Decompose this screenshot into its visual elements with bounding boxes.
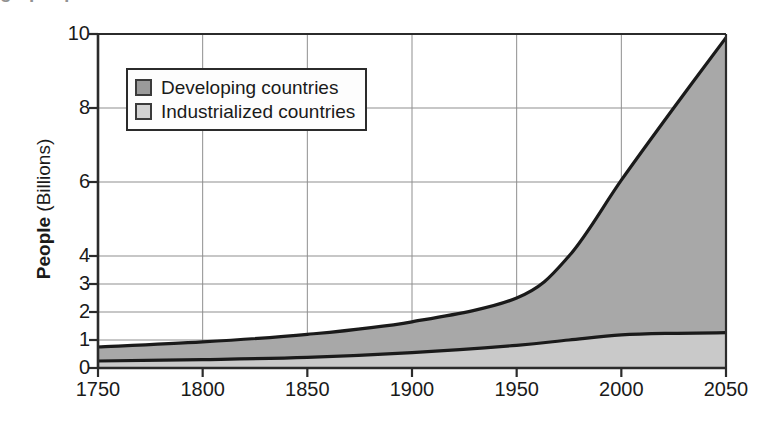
y-tick-2: 2 (44, 301, 90, 321)
y-tick-4: 4 (44, 245, 90, 265)
y-tick-10: 10 (44, 23, 90, 43)
y-tick-1: 1 (44, 329, 90, 349)
x-tick-1950: 1950 (477, 378, 557, 400)
x-tick-1750: 1750 (58, 378, 138, 400)
legend-label-developing: Developing countries (161, 78, 338, 97)
x-tick-1900: 1900 (372, 378, 452, 400)
y-tick-3: 3 (44, 273, 90, 293)
y-tick-8: 8 (44, 97, 90, 117)
legend-label-industrialized: Industrialized countries (161, 102, 355, 121)
x-tick-1850: 1850 (267, 378, 347, 400)
y-tick-6: 6 (44, 171, 90, 191)
x-tick-2000: 2000 (581, 378, 661, 400)
y-tick-0: 0 (44, 357, 90, 377)
population-area-chart: People (Billions) 012346810 Developing c… (0, 0, 771, 428)
legend-item-developing: Developing countries (135, 75, 355, 99)
legend-swatch-developing (135, 79, 152, 96)
y-axis-tick-labels: 012346810 (40, 0, 90, 428)
chart-legend: Developing countries Industrialized coun… (126, 68, 367, 131)
legend-item-industrialized: Industrialized countries (135, 99, 355, 123)
x-tick-1800: 1800 (163, 378, 243, 400)
legend-swatch-industrialized (135, 103, 152, 120)
x-tick-2050: 2050 (686, 378, 766, 400)
plot-area (0, 0, 771, 428)
